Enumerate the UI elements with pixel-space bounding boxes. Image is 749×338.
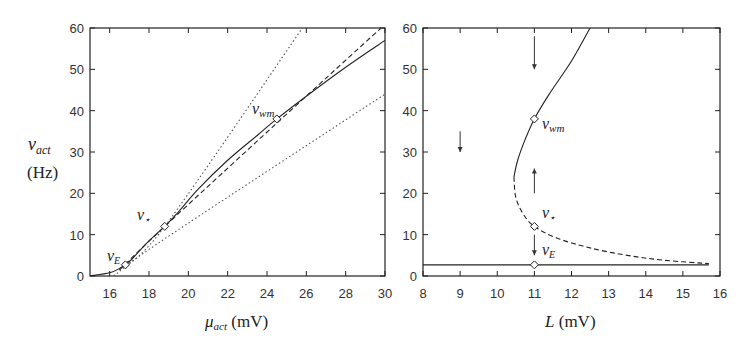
right-x-axis-label: L (mV)	[544, 312, 596, 331]
left-x-tick-label: 30	[378, 286, 392, 301]
left-x-axis-label: μact (mV)	[204, 312, 268, 332]
right-series-solid	[514, 28, 590, 177]
left-y-axis-unit: (Hz)	[27, 163, 58, 182]
left-y-tick-label: 20	[70, 186, 84, 201]
right-x-tick-label: 13	[601, 286, 615, 301]
right-plot-frame	[423, 28, 720, 276]
right-y-tick-label: 50	[403, 62, 417, 77]
right-label-nu-e: νE	[542, 241, 555, 260]
left-x-tick-label: 20	[181, 286, 195, 301]
left-x-tick-label: 26	[299, 286, 313, 301]
left-series-solid	[90, 40, 385, 276]
right-x-tick-label: 16	[713, 286, 727, 301]
right-fixed-point-marker	[530, 261, 538, 269]
right-x-tick-label: 14	[639, 286, 653, 301]
left-x-tick-label: 18	[142, 286, 156, 301]
left-y-tick-label: 40	[70, 104, 84, 119]
right-y-tick-label: 20	[403, 186, 417, 201]
right-y-tick-label: 60	[403, 21, 417, 36]
left-series-dotted	[120, 28, 303, 270]
right-y-tick-label: 10	[403, 228, 417, 243]
left-label-nu-wm: νwm	[252, 100, 274, 119]
right-x-tick-label: 9	[457, 286, 464, 301]
right-panel: 89101112131415160102030405060	[403, 21, 728, 301]
right-label-nu-star: ν⋆	[542, 204, 555, 223]
left-y-tick-label: 10	[70, 228, 84, 243]
left-x-tick-label: 22	[220, 286, 234, 301]
left-label-nu-star: ν⋆	[137, 206, 150, 225]
left-y-tick-label: 0	[77, 269, 84, 284]
right-x-tick-label: 8	[419, 286, 426, 301]
right-x-tick-label: 15	[676, 286, 690, 301]
left-x-tick-label: 28	[338, 286, 352, 301]
left-y-tick-label: 60	[70, 21, 84, 36]
right-fixed-point-marker	[530, 115, 538, 123]
left-x-tick-label: 16	[102, 286, 116, 301]
left-series-dotted	[114, 94, 385, 276]
right-x-tick-label: 11	[528, 286, 542, 301]
left-series-dashed	[120, 28, 382, 270]
right-x-tick-label: 10	[490, 286, 504, 301]
left-y-tick-label: 50	[70, 62, 84, 77]
right-y-tick-label: 0	[410, 269, 417, 284]
left-y-tick-label: 30	[70, 145, 84, 160]
figure: 16182022242628300102030405060 8910111213…	[0, 0, 749, 338]
left-y-axis-label: νact	[28, 134, 51, 157]
left-label-nu-e: νE	[107, 247, 120, 266]
left-x-tick-label: 24	[260, 286, 274, 301]
right-x-tick-label: 12	[564, 286, 578, 301]
right-y-tick-label: 30	[403, 145, 417, 160]
right-label-nu-wm: νwm	[542, 115, 564, 134]
right-y-tick-label: 40	[403, 104, 417, 119]
